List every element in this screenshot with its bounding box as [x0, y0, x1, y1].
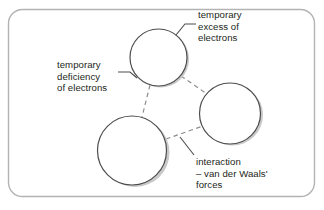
diagram-figure: temporary excess of electrons temporary …	[0, 0, 324, 210]
label-excess-line-3: electrons	[198, 32, 242, 44]
label-interaction-line-3: forces	[196, 179, 268, 191]
label-excess-line-1: temporary	[198, 9, 242, 21]
label-interaction-line-1: interaction	[196, 156, 268, 168]
diagram-canvas	[0, 0, 324, 210]
label-temporary-deficiency-of-electrons: temporary deficiency of electrons	[57, 59, 107, 94]
label-interaction-line-2: – van der Waals'	[196, 168, 268, 180]
label-interaction-van-der-waals-forces: interaction – van der Waals' forces	[196, 156, 268, 191]
label-excess-line-2: excess of	[198, 21, 242, 33]
atom-top-body	[130, 29, 187, 86]
label-deficiency-line-3: of electrons	[57, 82, 107, 94]
label-deficiency-line-1: temporary	[57, 59, 107, 71]
label-temporary-excess-of-electrons: temporary excess of electrons	[198, 9, 242, 44]
atom-bottom-left-body	[98, 116, 167, 185]
atom-right-body	[200, 83, 261, 144]
label-deficiency-line-2: deficiency	[57, 71, 107, 83]
